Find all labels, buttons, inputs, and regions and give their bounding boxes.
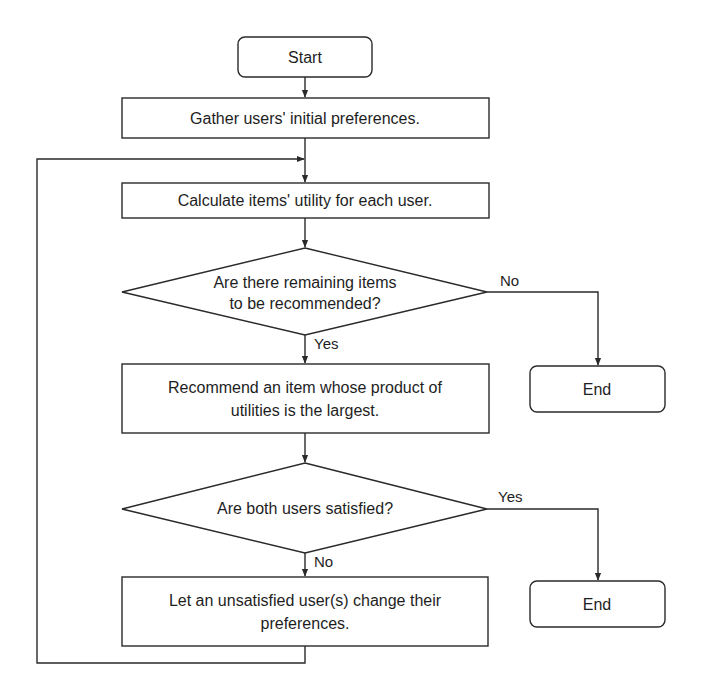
edge-label-remaining-no: No xyxy=(500,272,519,289)
change-process-box xyxy=(122,577,488,646)
flowchart: Start Gather users' initial preferences.… xyxy=(0,0,701,699)
edge-satisfied-yes xyxy=(487,509,598,580)
node-gather: Gather users' initial preferences. xyxy=(122,98,489,138)
edge-label-satisfied-no: No xyxy=(314,553,333,570)
node-recommend: Recommend an item whose product of utili… xyxy=(122,364,489,433)
change-label-line1: Let an unsatisfied user(s) change their xyxy=(169,592,442,609)
recommend-label-line2: utilities is the largest. xyxy=(231,402,380,419)
recommend-process-box xyxy=(122,364,489,433)
node-calculate: Calculate items' utility for each user. xyxy=(122,183,489,218)
recommend-label-line1: Recommend an item whose product of xyxy=(168,379,442,396)
calculate-label: Calculate items' utility for each user. xyxy=(178,192,433,209)
node-end-2: End xyxy=(530,581,665,627)
start-label: Start xyxy=(288,49,322,66)
edge-label-satisfied-yes: Yes xyxy=(498,488,522,505)
node-start: Start xyxy=(238,37,372,77)
edge-remaining-no xyxy=(487,292,598,365)
edge-label-remaining-yes: Yes xyxy=(314,335,338,352)
node-end-1: End xyxy=(530,366,665,412)
remaining-label-line2: to be recommended? xyxy=(229,295,380,312)
node-change: Let an unsatisfied user(s) change their … xyxy=(122,577,488,646)
end-2-label: End xyxy=(583,596,611,613)
node-satisfied-decision: Are both users satisfied? xyxy=(122,463,487,553)
remaining-diamond xyxy=(122,248,487,335)
remaining-label-line1: Are there remaining items xyxy=(213,274,396,291)
satisfied-label: Are both users satisfied? xyxy=(217,500,393,517)
node-remaining-decision: Are there remaining items to be recommen… xyxy=(122,248,487,335)
end-1-label: End xyxy=(583,381,611,398)
change-label-line2: preferences. xyxy=(261,615,350,632)
gather-label: Gather users' initial preferences. xyxy=(190,110,420,127)
